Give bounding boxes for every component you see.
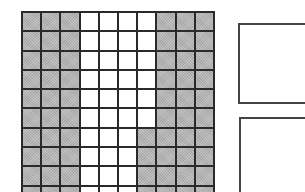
shaded-square bbox=[157, 52, 176, 71]
shaded-square bbox=[42, 13, 61, 32]
shaded-square bbox=[42, 32, 61, 51]
shaded-square bbox=[23, 32, 42, 51]
shaded-square bbox=[138, 187, 157, 192]
unshaded-square bbox=[138, 32, 157, 51]
shaded-square bbox=[196, 32, 215, 51]
unshaded-square bbox=[119, 52, 138, 71]
shaded-square bbox=[177, 129, 196, 148]
shaded-square bbox=[157, 187, 176, 192]
unshaded-square bbox=[119, 71, 138, 90]
shaded-square bbox=[157, 13, 176, 32]
unshaded-square bbox=[81, 32, 100, 51]
unshaded-square bbox=[138, 90, 157, 109]
shaded-square bbox=[157, 90, 176, 109]
shaded-square bbox=[196, 52, 215, 71]
shaded-square bbox=[23, 148, 42, 167]
shaded-square bbox=[23, 71, 42, 90]
shaded-square bbox=[23, 109, 42, 128]
unshaded-square bbox=[81, 148, 100, 167]
shaded-square bbox=[196, 90, 215, 109]
shaded-square bbox=[61, 167, 80, 186]
unshaded-square bbox=[100, 187, 119, 192]
shaded-square bbox=[157, 32, 176, 51]
shaded-square bbox=[196, 129, 215, 148]
unshaded-square bbox=[119, 109, 138, 128]
unshaded-square bbox=[100, 71, 119, 90]
shaded-square bbox=[61, 52, 80, 71]
shaded-square bbox=[61, 13, 80, 32]
shaded-square bbox=[157, 148, 176, 167]
shaded-square bbox=[177, 13, 196, 32]
shaded-square bbox=[61, 71, 80, 90]
unshaded-square bbox=[119, 148, 138, 167]
shaded-square bbox=[196, 187, 215, 192]
shaded-square bbox=[157, 71, 176, 90]
unshaded-square bbox=[100, 148, 119, 167]
shaded-square bbox=[196, 71, 215, 90]
shaded-square bbox=[42, 187, 61, 192]
shaded-square bbox=[42, 109, 61, 128]
shaded-square bbox=[42, 71, 61, 90]
shaded-square bbox=[196, 13, 215, 32]
shaded-square bbox=[42, 167, 61, 186]
unshaded-square bbox=[138, 71, 157, 90]
unshaded-square bbox=[81, 187, 100, 192]
shaded-square bbox=[42, 90, 61, 109]
unshaded-square bbox=[81, 71, 100, 90]
unshaded-square bbox=[100, 129, 119, 148]
unshaded-square bbox=[81, 13, 100, 32]
shaded-square bbox=[61, 32, 80, 51]
shaded-square bbox=[23, 187, 42, 192]
unshaded-square bbox=[81, 109, 100, 128]
shaded-square bbox=[157, 129, 176, 148]
unshaded-square bbox=[138, 52, 157, 71]
shaded-square bbox=[138, 167, 157, 186]
shaded-square bbox=[177, 167, 196, 186]
shaded-square bbox=[177, 71, 196, 90]
shaded-square bbox=[23, 52, 42, 71]
shaded-square bbox=[157, 167, 176, 186]
shaded-square bbox=[196, 148, 215, 167]
shaded-square bbox=[61, 90, 80, 109]
unshaded-square bbox=[100, 90, 119, 109]
unshaded-square bbox=[119, 167, 138, 186]
shaded-square bbox=[42, 148, 61, 167]
unshaded-square bbox=[100, 109, 119, 128]
shaded-square bbox=[23, 129, 42, 148]
shaded-square bbox=[23, 13, 42, 32]
shaded-square bbox=[157, 109, 176, 128]
shaded-square bbox=[138, 129, 157, 148]
unshaded-square bbox=[119, 13, 138, 32]
unshaded-square bbox=[119, 32, 138, 51]
unshaded-square bbox=[81, 167, 100, 186]
unshaded-square bbox=[119, 187, 138, 192]
hundred-grid bbox=[21, 11, 215, 192]
unshaded-square bbox=[100, 167, 119, 186]
unshaded-square bbox=[119, 90, 138, 109]
shaded-square bbox=[177, 90, 196, 109]
shaded-square bbox=[177, 52, 196, 71]
shaded-square bbox=[42, 129, 61, 148]
unshaded-square bbox=[119, 129, 138, 148]
shaded-square bbox=[138, 148, 157, 167]
shaded-square bbox=[177, 32, 196, 51]
shaded-square bbox=[61, 109, 80, 128]
shaded-square bbox=[177, 109, 196, 128]
shaded-square bbox=[42, 52, 61, 71]
unshaded-square bbox=[81, 90, 100, 109]
shaded-square bbox=[177, 148, 196, 167]
shaded-square bbox=[196, 167, 215, 186]
unshaded-square bbox=[100, 13, 119, 32]
answer-box-1[interactable] bbox=[238, 23, 305, 104]
answer-box-2[interactable] bbox=[239, 117, 305, 192]
unshaded-square bbox=[138, 13, 157, 32]
shaded-square bbox=[23, 167, 42, 186]
unshaded-square bbox=[81, 52, 100, 71]
unshaded-square bbox=[81, 129, 100, 148]
unshaded-square bbox=[138, 109, 157, 128]
unshaded-square bbox=[100, 32, 119, 51]
shaded-square bbox=[177, 187, 196, 192]
shaded-square bbox=[196, 109, 215, 128]
shaded-square bbox=[61, 148, 80, 167]
shaded-square bbox=[23, 90, 42, 109]
